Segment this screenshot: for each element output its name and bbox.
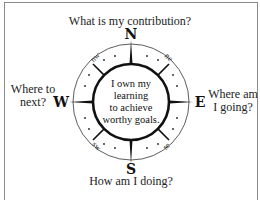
- north-label: N: [125, 26, 138, 42]
- center-line-4: worthy goals.: [102, 114, 159, 125]
- south-label: S: [126, 161, 136, 177]
- se-label: se: [161, 140, 172, 151]
- west-label: W: [52, 94, 69, 110]
- east-label: E: [195, 94, 206, 110]
- compass-rose: N S W E nw ne sw se I own my learning to…: [0, 0, 260, 200]
- center-statement: I own my learning to achieve worthy goal…: [102, 78, 159, 125]
- center-line-3: to achieve: [110, 102, 153, 113]
- center-line-1: I own my: [111, 78, 152, 89]
- sw-label: sw: [90, 140, 103, 153]
- nw-label: nw: [89, 50, 102, 63]
- center-line-2: learning: [114, 90, 149, 101]
